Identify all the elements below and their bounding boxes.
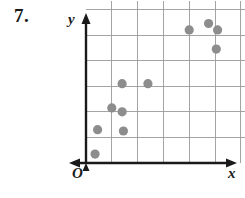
- data-point: [107, 103, 116, 112]
- data-point: [212, 44, 221, 53]
- data-point: [185, 25, 194, 34]
- vertical-gridlines: [112, 1, 241, 163]
- data-point: [143, 79, 152, 88]
- data-point: [93, 125, 102, 134]
- data-point: [119, 126, 128, 135]
- data-point: [118, 107, 127, 116]
- data-point: [213, 25, 222, 34]
- y-axis-arrowhead: [82, 13, 91, 24]
- scatter-plot-figure: 7. y x O: [0, 0, 245, 198]
- x-axis-arrowhead: [226, 159, 237, 168]
- x-axis-arrowhead-left: [69, 159, 80, 168]
- plot-canvas: [0, 0, 245, 198]
- data-point: [204, 19, 213, 28]
- data-point: [118, 79, 127, 88]
- data-point: [90, 149, 99, 158]
